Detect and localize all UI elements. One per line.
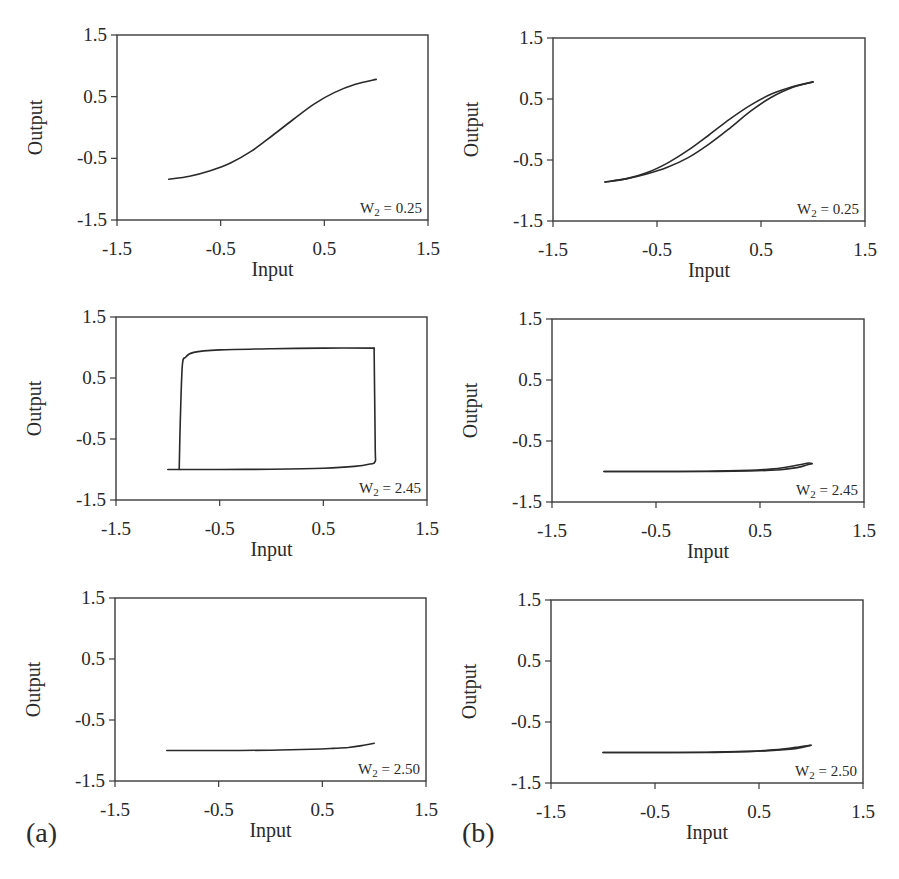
x-axis-title: Input: [687, 540, 730, 563]
y-tick-label: 1.5: [83, 24, 107, 45]
weight-annotation: W2 = 2.45: [359, 480, 421, 498]
x-tick-label: -1.5: [537, 520, 567, 541]
x-tick-label: 0.5: [747, 801, 771, 822]
panel-label-a: (a): [26, 817, 57, 848]
y-tick-label: 1.5: [519, 27, 543, 48]
y-tick-label: -0.5: [513, 149, 543, 170]
x-tick-label: -0.5: [204, 799, 234, 820]
chart-panel-a3: -1.5-0.50.51.51.50.5-0.5-1.5InputOutputW…: [22, 587, 438, 842]
chart-panel-b1: -1.5-0.50.51.51.50.5-0.5-1.5InputOutputW…: [460, 27, 877, 282]
y-tick-label: 0.5: [517, 650, 541, 671]
plot-frame: [552, 319, 864, 502]
x-tick-label: 1.5: [416, 238, 440, 259]
x-tick-label: 0.5: [311, 518, 335, 539]
plot-frame: [553, 38, 865, 221]
series-increasing: [603, 745, 811, 752]
weight-annotation: W2 = 0.25: [360, 200, 422, 218]
y-axis-title: Output: [22, 661, 45, 717]
weight-annotation: W2 = 2.50: [795, 763, 857, 781]
series-increasing: [605, 82, 813, 182]
y-axis-title: Output: [460, 101, 483, 157]
y-tick-label: 0.5: [519, 88, 543, 109]
y-axis-title: Output: [23, 380, 46, 436]
y-tick-label: -1.5: [75, 770, 105, 791]
x-axis-title: Input: [250, 538, 293, 561]
y-tick-label: 1.5: [81, 587, 105, 608]
y-tick-label: 1.5: [517, 589, 541, 610]
y-tick-label: -0.5: [77, 147, 107, 168]
y-tick-label: 1.5: [518, 308, 542, 329]
x-tick-label: 0.5: [310, 799, 334, 820]
y-tick-label: -1.5: [511, 772, 541, 793]
y-tick-label: -0.5: [512, 430, 542, 451]
plot-frame: [116, 317, 427, 500]
weight-annotation: W2 = 2.50: [358, 761, 420, 779]
x-tick-label: -0.5: [640, 801, 670, 822]
chart-panel-a2: -1.5-0.50.51.51.50.5-0.5-1.5InputOutputW…: [23, 306, 439, 561]
plot-frame: [551, 600, 863, 783]
series-decreasing: [179, 348, 374, 469]
y-tick-label: 0.5: [518, 369, 542, 390]
x-tick-label: -0.5: [642, 239, 672, 260]
x-tick-label: -1.5: [536, 801, 566, 822]
x-tick-label: 1.5: [415, 518, 439, 539]
x-axis-title: Input: [686, 821, 729, 844]
y-tick-label: 0.5: [83, 86, 107, 107]
y-tick-label: 0.5: [81, 648, 105, 669]
y-tick-label: -0.5: [76, 428, 106, 449]
series-decreasing: [605, 82, 813, 182]
x-axis-title: Input: [688, 259, 731, 282]
figure: -1.5-0.50.51.51.50.5-0.5-1.5InputOutputW…: [0, 0, 899, 879]
x-tick-label: -1.5: [101, 518, 131, 539]
x-tick-label: -1.5: [102, 238, 132, 259]
chart-panel-b3: -1.5-0.50.51.51.50.5-0.5-1.5InputOutputW…: [458, 589, 875, 844]
y-tick-label: -1.5: [76, 489, 106, 510]
plot-frame: [117, 35, 428, 220]
x-tick-label: -1.5: [538, 239, 568, 260]
series-increasing: [168, 348, 376, 469]
y-tick-label: -0.5: [511, 711, 541, 732]
x-axis-title: Input: [249, 819, 292, 842]
x-tick-label: -0.5: [641, 520, 671, 541]
x-tick-label: 0.5: [749, 239, 773, 260]
y-tick-label: 0.5: [82, 367, 106, 388]
series-response: [167, 743, 374, 750]
panel-label-b: (b): [462, 817, 495, 848]
chart-panel-b2: -1.5-0.50.51.51.50.5-0.5-1.5InputOutputW…: [459, 308, 876, 563]
y-axis-title: Output: [459, 382, 482, 438]
x-tick-label: 1.5: [851, 801, 875, 822]
x-tick-label: -0.5: [205, 518, 235, 539]
weight-annotation: W2 = 2.45: [796, 482, 858, 500]
y-tick-label: 1.5: [82, 306, 106, 327]
y-tick-label: -1.5: [513, 210, 543, 231]
x-tick-label: 1.5: [414, 799, 438, 820]
plot-frame: [115, 598, 426, 781]
y-tick-label: -1.5: [77, 209, 107, 230]
x-tick-label: -0.5: [206, 238, 236, 259]
x-tick-label: 1.5: [852, 520, 876, 541]
y-axis-title: Output: [458, 663, 481, 719]
y-tick-label: -0.5: [75, 709, 105, 730]
x-tick-label: 1.5: [853, 239, 877, 260]
chart-panel-a1: -1.5-0.50.51.51.50.5-0.5-1.5InputOutputW…: [24, 24, 440, 281]
y-tick-label: -1.5: [512, 491, 542, 512]
x-tick-label: -1.5: [100, 799, 130, 820]
weight-annotation: W2 = 0.25: [797, 201, 859, 219]
x-axis-title: Input: [251, 258, 294, 281]
y-axis-title: Output: [24, 99, 47, 155]
series-response: [169, 79, 376, 179]
x-tick-label: 0.5: [312, 238, 336, 259]
x-tick-label: 0.5: [748, 520, 772, 541]
